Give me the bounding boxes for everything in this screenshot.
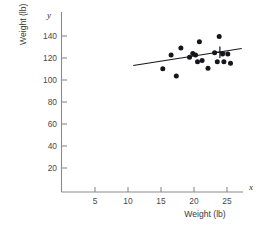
y-axis-tick-labels: 140 120 100 80 60 40 20: [43, 31, 57, 173]
x-axis-title: Weight (lb): [184, 209, 226, 219]
scatter-plot-figure: 140 120 100 80 60 40 20 5 10 15 20 25 y …: [0, 0, 270, 235]
x-tick-label-20: 20: [189, 196, 199, 206]
scatter-point: [195, 59, 200, 64]
scatter-point: [197, 39, 202, 44]
scatter-point: [217, 34, 222, 39]
x-axis-tick-labels: 5 10 15 20 25: [93, 196, 232, 206]
y-axis-ticks: [62, 36, 68, 168]
scatter-points: [160, 34, 233, 79]
centroid-marker: [214, 47, 225, 59]
y-axis-variable-label: y: [46, 10, 51, 20]
scatter-point: [169, 53, 174, 58]
y-tick-label-40: 40: [48, 141, 58, 151]
x-axis-ticks: [95, 187, 227, 192]
x-axis-variable-label: x: [248, 182, 253, 192]
x-tick-label-5: 5: [93, 196, 98, 206]
scatter-point: [221, 59, 226, 64]
scatter-point: [174, 73, 179, 78]
scatter-point: [206, 66, 211, 71]
scatter-point: [193, 53, 198, 58]
y-tick-label-140: 140: [43, 31, 57, 41]
y-axis-title: Weight (lb): [18, 3, 28, 45]
scatter-point: [187, 55, 192, 60]
scatter-point: [178, 45, 183, 50]
y-tick-label-80: 80: [48, 97, 58, 107]
y-tick-label-100: 100: [43, 75, 57, 85]
scatter-point: [200, 58, 205, 63]
scatter-point: [215, 59, 220, 64]
chart-canvas: 140 120 100 80 60 40 20 5 10 15 20 25 y …: [0, 0, 270, 235]
scatter-point: [225, 51, 230, 56]
x-tick-label-10: 10: [123, 196, 133, 206]
y-tick-label-120: 120: [43, 53, 57, 63]
scatter-point: [160, 66, 165, 71]
scatter-point: [228, 61, 233, 66]
x-tick-label-25: 25: [222, 196, 232, 206]
x-tick-label-15: 15: [156, 196, 166, 206]
y-tick-label-20: 20: [48, 163, 58, 173]
y-tick-label-60: 60: [48, 119, 58, 129]
